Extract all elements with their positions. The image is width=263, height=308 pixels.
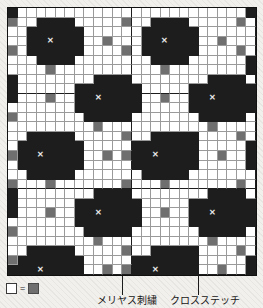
cell-dark (27, 132, 37, 142)
cell-white (142, 132, 152, 142)
cell-white (8, 218, 18, 228)
cell-white (142, 103, 152, 113)
cell-dark (84, 94, 94, 104)
cell-white (65, 8, 75, 18)
cell-dark (161, 256, 171, 266)
cell-white (151, 199, 161, 209)
cell-white (218, 46, 228, 56)
cell-dark (170, 27, 180, 37)
cell-white (189, 56, 199, 66)
cell-dark (161, 265, 171, 275)
cell-dark (227, 113, 237, 123)
cell-white (18, 113, 28, 123)
cell-white (151, 189, 161, 199)
cell-white (27, 122, 37, 132)
cell-white (84, 151, 94, 161)
cell-white (37, 113, 47, 123)
cell-white (237, 265, 247, 275)
cell-white (8, 56, 18, 66)
cell-dark (180, 46, 190, 56)
cell-gray (237, 246, 247, 256)
cell-white (18, 84, 28, 94)
cell-dark (37, 256, 47, 266)
cross-stitch-x-icon: ✕ (37, 266, 44, 274)
cell-dark (180, 151, 190, 161)
cell-dark (132, 94, 142, 104)
cell-dark (237, 208, 247, 218)
cell-white (113, 170, 123, 180)
cell-dark (180, 141, 190, 151)
cell-white (227, 161, 237, 171)
callout-label-cross-stitch: クロスステッチ (170, 296, 240, 306)
cell-white (227, 27, 237, 37)
cell-white (208, 65, 218, 75)
cell-white (132, 56, 142, 66)
cell-dark (208, 218, 218, 228)
cell-white (84, 161, 94, 171)
cell-white (75, 180, 85, 190)
cell-dark (94, 113, 104, 123)
cell-dark (113, 84, 123, 94)
cell-white (218, 65, 228, 75)
cell-dark (37, 141, 47, 151)
cell-dark (142, 265, 152, 275)
cell-white (142, 75, 152, 85)
cell-white (94, 151, 104, 161)
cell-dark (237, 199, 247, 209)
cell-white (142, 218, 152, 228)
cell-dark (84, 208, 94, 218)
cell-gray (208, 237, 218, 247)
cross-stitch-x-icon: ✕ (209, 208, 216, 216)
cell-white (103, 122, 113, 132)
cell-white (18, 199, 28, 209)
cell-dark (94, 189, 104, 199)
cell-white (122, 161, 132, 171)
cell-dark (27, 151, 37, 161)
cell-white (151, 180, 161, 190)
cell-white (142, 199, 152, 209)
cell-white (94, 256, 104, 266)
cell-dark (189, 141, 199, 151)
cell-dark (161, 18, 171, 28)
cell-white (142, 180, 152, 190)
cell-white (8, 246, 18, 256)
cell-white (8, 27, 18, 37)
cell-white (37, 103, 47, 113)
cell-white (18, 246, 28, 256)
cell-white (18, 132, 28, 142)
cell-white (103, 132, 113, 142)
cell-white (199, 65, 209, 75)
cell-dark (113, 208, 123, 218)
cell-dark (75, 265, 85, 275)
cell-white (218, 161, 228, 171)
cell-white (27, 237, 37, 247)
cell-dark (122, 84, 132, 94)
cell-white (237, 256, 247, 266)
cell-dark (46, 161, 56, 171)
cell-gray (122, 265, 132, 275)
cell-white (56, 180, 66, 190)
cell-white (8, 103, 18, 113)
cell-white (227, 151, 237, 161)
cell-white (180, 122, 190, 132)
cell-dark (65, 46, 75, 56)
cell-white (75, 122, 85, 132)
cell-dark (56, 132, 66, 142)
cell-dark (56, 46, 66, 56)
cell-dark (113, 75, 123, 85)
cell-dark (84, 199, 94, 209)
cell-dark (18, 151, 28, 161)
cell-gray (103, 37, 113, 47)
cell-white (208, 170, 218, 180)
cell-dark (189, 103, 199, 113)
cell-dark (161, 246, 171, 256)
cell-white (113, 237, 123, 247)
cell-white (37, 65, 47, 75)
cell-dark (27, 246, 37, 256)
cell-dark (151, 56, 161, 66)
cell-dark (170, 37, 180, 47)
cell-dark (65, 170, 75, 180)
cell-dark (46, 27, 56, 37)
cell-dark (227, 208, 237, 218)
cell-white (18, 170, 28, 180)
